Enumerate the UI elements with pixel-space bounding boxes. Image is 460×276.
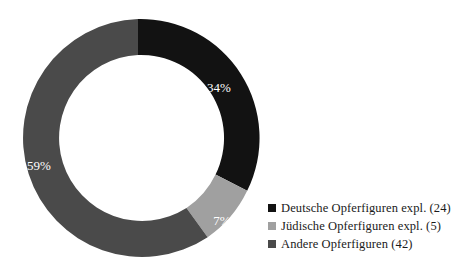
donut-chart: 34% 7% 59% xyxy=(0,0,276,276)
legend-item-deutsche[interactable]: Deutsche Opferfiguren expl. (24) xyxy=(268,199,458,217)
legend-swatch-andere xyxy=(268,240,276,248)
legend-swatch-deutsche xyxy=(268,204,276,212)
donut-slice-deutsche[interactable] xyxy=(138,19,260,191)
slice-label-andere: 59% xyxy=(27,158,51,173)
legend-item-juedische[interactable]: Jüdische Opferfiguren expl. (5) xyxy=(268,217,458,235)
legend-swatch-juedische xyxy=(268,222,276,230)
legend-label-andere: Andere Opferfiguren (42) xyxy=(281,237,413,252)
legend-item-andere[interactable]: Andere Opferfiguren (42) xyxy=(268,235,458,253)
legend-label-deutsche: Deutsche Opferfiguren expl. (24) xyxy=(281,201,451,216)
chart-legend: Deutsche Opferfiguren expl. (24) Jüdisch… xyxy=(268,199,458,253)
slice-label-deutsche: 34% xyxy=(207,80,231,95)
slice-label-juedische: 7% xyxy=(213,213,231,228)
donut-chart-svg: 34% 7% 59% xyxy=(0,0,276,276)
legend-label-juedische: Jüdische Opferfiguren expl. (5) xyxy=(281,219,441,234)
